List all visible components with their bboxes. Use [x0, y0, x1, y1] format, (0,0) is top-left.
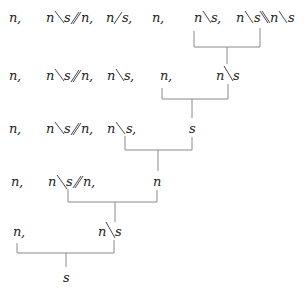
svg-text:n: n	[98, 224, 106, 239]
svg-text:,: ,	[168, 68, 172, 83]
derivation-diagram: n , n s n , n s , n , n s ,	[0, 0, 304, 294]
row-4: n , n s n , n	[11, 174, 161, 189]
svg-text:s: s	[189, 121, 196, 136]
row-5: n , n s	[13, 222, 122, 239]
reduction-bracket-5	[17, 240, 114, 267]
svg-text:,: ,	[19, 174, 23, 189]
token-n-comma: n ,	[9, 10, 21, 25]
svg-text:,: ,	[17, 10, 21, 25]
svg-text:n: n	[46, 10, 54, 25]
token-n-bs-s-dslash-n-comma: n s n ,	[46, 68, 93, 83]
svg-text:,: ,	[91, 174, 95, 189]
svg-text:,: ,	[17, 121, 21, 136]
token-n-bs-s-comma: n s ,	[107, 121, 136, 136]
svg-text:,: ,	[217, 10, 221, 25]
token-n-bs-s: n s	[216, 66, 240, 83]
row-3: n , n s n , n s , s	[9, 121, 196, 136]
token-n-bs-s-dslash-n-comma: n s n ,	[46, 10, 93, 25]
svg-text:n: n	[48, 174, 56, 189]
row-2: n , n s n , n s , n , n s	[9, 66, 240, 83]
svg-text:,: ,	[160, 10, 164, 25]
token-n-comma: n ,	[9, 68, 21, 83]
svg-text:s: s	[64, 10, 71, 25]
svg-text:n: n	[194, 10, 202, 25]
svg-text:s: s	[66, 174, 73, 189]
reduction-bracket-4	[68, 189, 157, 222]
svg-text:n: n	[270, 10, 278, 25]
token-n: n	[153, 174, 161, 189]
svg-text:s: s	[288, 10, 295, 25]
token-n-comma: n ,	[13, 224, 25, 239]
token-n-slash-s-comma: n s ,	[106, 10, 132, 25]
svg-text:s: s	[115, 224, 122, 239]
svg-text:,: ,	[89, 10, 93, 25]
svg-text:n: n	[107, 121, 115, 136]
svg-text:s: s	[64, 68, 71, 83]
token-n-comma: n ,	[152, 10, 164, 25]
reduction-bracket-1	[194, 28, 260, 64]
token-n-comma: n ,	[11, 174, 23, 189]
token-n-bs-s-dslash-n-comma: n s n ,	[48, 174, 95, 189]
token-n-bs-s: n s	[98, 222, 122, 239]
svg-text:n: n	[107, 68, 115, 83]
svg-text:n: n	[216, 68, 224, 83]
token-n-comma: n ,	[9, 121, 21, 136]
svg-text:,: ,	[17, 68, 21, 83]
svg-text:n: n	[46, 121, 54, 136]
token-n-bs-s-comma: n s ,	[194, 10, 221, 25]
svg-text:s: s	[233, 68, 240, 83]
token-n-comma: n ,	[160, 68, 172, 83]
svg-text:n: n	[106, 10, 114, 25]
svg-text:,: ,	[89, 121, 93, 136]
svg-text:,: ,	[128, 10, 132, 25]
token-s: s	[189, 121, 196, 136]
svg-text:,: ,	[132, 121, 136, 136]
token-n-bs-s-dslash-n-comma: n s n ,	[46, 121, 93, 136]
svg-text:s: s	[63, 270, 70, 285]
token-n-bs-s-dbs-n-bs-s: n s n s	[236, 10, 295, 25]
svg-text:,: ,	[21, 224, 25, 239]
svg-text:,: ,	[89, 68, 93, 83]
row-1: n , n s n , n s , n , n s ,	[9, 10, 295, 25]
token-n-bs-s-comma: n s ,	[107, 68, 134, 83]
svg-text:,: ,	[130, 68, 134, 83]
svg-text:s: s	[254, 10, 261, 25]
svg-text:n: n	[46, 68, 54, 83]
svg-text:s: s	[64, 121, 71, 136]
svg-text:n: n	[153, 174, 161, 189]
reduction-bracket-3	[125, 136, 192, 171]
svg-text:n: n	[236, 10, 244, 25]
reduction-bracket-2	[162, 84, 228, 118]
result-s: s	[63, 270, 70, 285]
